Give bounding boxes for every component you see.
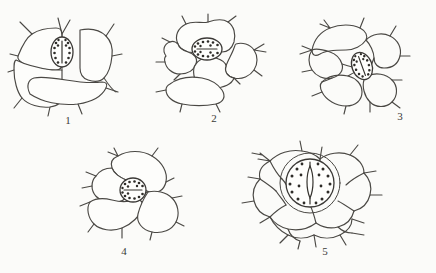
epidermal-cell bbox=[88, 199, 143, 230]
figure-5 bbox=[240, 135, 395, 250]
figure-4-caption: 4 bbox=[114, 245, 134, 257]
stoma-5 bbox=[286, 159, 334, 207]
stoma-4 bbox=[120, 178, 146, 202]
stoma-2 bbox=[192, 38, 222, 60]
figure-3-caption: 3 bbox=[390, 110, 410, 122]
figure-2-drawing bbox=[152, 10, 277, 115]
epidermal-cell bbox=[312, 25, 367, 55]
figure-plate: 1 bbox=[0, 0, 436, 273]
figure-3 bbox=[296, 10, 426, 115]
figure-1 bbox=[8, 8, 138, 118]
figure-4-drawing bbox=[78, 140, 203, 245]
figure-4 bbox=[78, 140, 203, 245]
epidermal-cell bbox=[80, 29, 112, 81]
figure-1-drawing bbox=[8, 8, 138, 118]
stoma-1 bbox=[51, 37, 73, 67]
figure-1-caption: 1 bbox=[58, 114, 78, 126]
figure-5-drawing bbox=[240, 135, 395, 250]
figure-2 bbox=[152, 10, 277, 115]
epidermal-cell bbox=[309, 49, 343, 78]
figure-3-drawing bbox=[296, 10, 426, 115]
figure-5-caption: 5 bbox=[315, 245, 335, 257]
figure-2-caption: 2 bbox=[204, 112, 224, 124]
